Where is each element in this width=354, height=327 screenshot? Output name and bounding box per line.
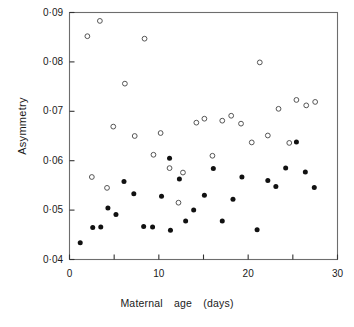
data-point-open xyxy=(313,100,318,105)
data-point-filled xyxy=(105,206,110,211)
data-point-open xyxy=(89,175,94,180)
data-point-filled xyxy=(312,185,317,190)
data-point-open xyxy=(220,118,225,123)
data-point-open xyxy=(276,106,281,111)
data-point-filled xyxy=(283,166,288,171)
data-point-open xyxy=(304,103,309,108)
data-point-filled xyxy=(183,218,188,223)
data-point-open xyxy=(167,166,172,171)
data-point-filled xyxy=(303,170,308,175)
data-point-open xyxy=(176,200,181,205)
data-point-filled xyxy=(150,224,155,229)
data-point-filled xyxy=(211,166,216,171)
data-point-filled xyxy=(90,225,95,230)
data-point-filled xyxy=(168,228,173,233)
data-point-open xyxy=(249,140,254,145)
data-point-filled xyxy=(167,156,172,161)
data-point-open xyxy=(132,134,137,139)
scatter-plot-figure: Asymmetry Maternal age (days) 0·040·050·… xyxy=(0,0,354,327)
data-point-open xyxy=(122,81,127,86)
data-point-filled xyxy=(230,197,235,202)
plot-canvas xyxy=(0,0,354,327)
data-point-filled xyxy=(239,175,244,180)
data-point-filled xyxy=(177,176,182,181)
data-point-open xyxy=(85,34,90,39)
data-point-open xyxy=(142,36,147,41)
data-points xyxy=(78,18,318,245)
data-point-open xyxy=(111,124,116,129)
data-point-open xyxy=(97,18,102,23)
data-point-filled xyxy=(141,224,146,229)
data-point-filled xyxy=(294,139,299,144)
data-point-filled xyxy=(191,208,196,213)
plot-frame xyxy=(70,13,338,260)
data-point-open xyxy=(210,153,215,158)
data-point-filled xyxy=(98,224,103,229)
data-point-filled xyxy=(202,193,207,198)
data-point-open xyxy=(181,170,186,175)
data-point-open xyxy=(229,113,234,118)
data-point-open xyxy=(257,60,262,65)
data-point-filled xyxy=(273,184,278,189)
data-point-filled xyxy=(220,218,225,223)
data-point-filled xyxy=(265,178,270,183)
data-point-filled xyxy=(121,179,126,184)
data-point-filled xyxy=(159,194,164,199)
data-point-filled xyxy=(255,227,260,232)
data-point-open xyxy=(239,121,244,126)
data-point-open xyxy=(158,131,163,136)
data-point-open xyxy=(194,120,199,125)
data-point-open xyxy=(151,152,156,157)
data-point-open xyxy=(202,116,207,121)
data-point-open xyxy=(287,141,292,146)
data-point-open xyxy=(105,185,110,190)
data-point-filled xyxy=(113,212,118,217)
data-point-open xyxy=(265,133,270,138)
data-point-filled xyxy=(78,240,83,245)
data-point-open xyxy=(294,98,299,103)
data-point-filled xyxy=(131,191,136,196)
axis-ticks xyxy=(70,13,338,260)
